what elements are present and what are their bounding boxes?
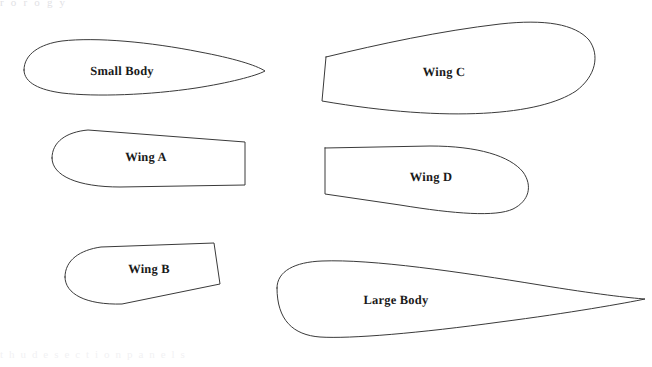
diagram-page: r o r o g y Small Body Wing A Wing B Win…: [0, 0, 652, 367]
shape-large-body[interactable]: [277, 261, 645, 338]
label-wing-b: Wing B: [128, 262, 170, 277]
label-large-body: Large Body: [364, 293, 429, 308]
shape-outlines-canvas: [0, 0, 652, 367]
label-wing-c: Wing C: [423, 65, 465, 80]
label-wing-a: Wing A: [125, 150, 167, 165]
label-small-body: Small Body: [90, 64, 153, 79]
label-wing-d: Wing D: [410, 170, 452, 185]
